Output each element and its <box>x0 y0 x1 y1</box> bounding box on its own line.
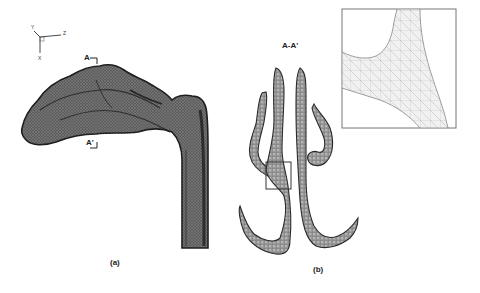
caption-a: (a) <box>110 258 120 267</box>
figure-canvas <box>0 0 480 293</box>
axis-label-z: Z <box>63 30 66 36</box>
section-label-a: A <box>84 53 90 62</box>
nasal-cavity-body <box>22 65 208 248</box>
panel-a-geometry <box>22 65 208 248</box>
inset-mesh-detail <box>342 9 456 128</box>
coordinate-axes-icon <box>34 31 61 53</box>
axis-label-x: X <box>38 55 41 61</box>
section-title: A-A' <box>282 41 298 50</box>
section-marker-a-top <box>90 58 97 64</box>
caption-b: (b) <box>313 265 323 274</box>
axis-label-y: Y <box>31 24 34 30</box>
section-label-a-prime: A' <box>86 138 94 147</box>
right-outer-branch <box>308 104 333 166</box>
panel-b-cross-section <box>239 68 358 254</box>
